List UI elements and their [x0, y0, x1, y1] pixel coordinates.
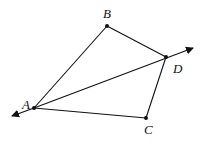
label-b: B	[103, 6, 111, 21]
point-c	[144, 116, 148, 120]
line-ad	[34, 48, 193, 108]
label-d: D	[172, 61, 183, 76]
geometry-diagram: A B C D	[0, 0, 207, 144]
segment-ab	[34, 26, 107, 108]
point-d	[164, 55, 168, 59]
point-b	[105, 24, 109, 28]
label-c: C	[144, 122, 153, 137]
segment-ca	[34, 108, 146, 118]
segment-dc	[146, 57, 166, 118]
segment-bd	[107, 26, 166, 57]
point-a	[32, 106, 36, 110]
label-a: A	[21, 97, 30, 112]
